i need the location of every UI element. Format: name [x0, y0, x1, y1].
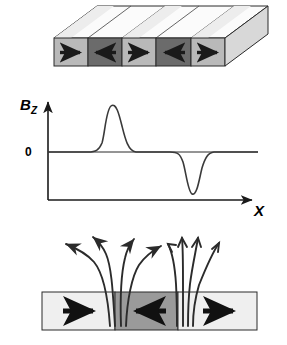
field-bar	[42, 292, 257, 330]
y-axis-subscript: Z	[30, 105, 38, 116]
magnetic-domain-figure: B Z 0 X	[0, 0, 287, 345]
zero-label: 0	[25, 145, 32, 159]
slab-front-face	[54, 38, 225, 66]
field-line-panel	[0, 222, 287, 345]
y-axis-label: B	[20, 96, 31, 113]
x-axis-label: X	[253, 202, 265, 219]
magnetized-slab-panel	[0, 0, 287, 90]
field-profile-panel: B Z 0 X	[0, 88, 287, 228]
bz-curve	[48, 105, 258, 194]
